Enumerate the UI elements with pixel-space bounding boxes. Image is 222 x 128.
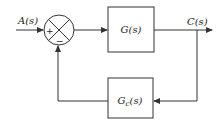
feedback-block: Gc(s) bbox=[108, 78, 153, 118]
forward-block-label: G(s) bbox=[121, 24, 142, 35]
feedback-pickoff-line bbox=[154, 30, 197, 101]
feedback-return-line bbox=[58, 46, 108, 101]
forward-block: G(s) bbox=[108, 7, 154, 52]
summing-junction: + − bbox=[44, 15, 74, 46]
input-label: A(s) bbox=[17, 15, 38, 26]
output-label: C(s) bbox=[187, 16, 208, 27]
minus-sign: − bbox=[56, 36, 64, 46]
plus-sign: + bbox=[46, 26, 54, 36]
block-diagram: A(s) + − G(s) C(s) Gc(s) bbox=[0, 0, 222, 128]
